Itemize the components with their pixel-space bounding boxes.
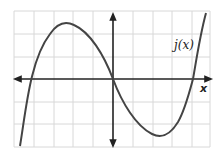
- x-axis-label: x: [199, 82, 208, 95]
- chart: j(x) x: [0, 0, 220, 152]
- curve-label: j(x): [171, 38, 194, 52]
